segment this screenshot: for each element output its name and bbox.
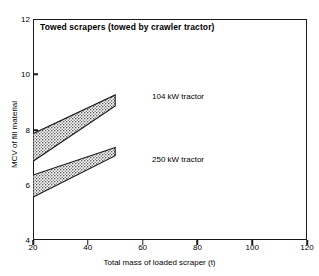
x-axis-title: Total mass of loaded scraper (t) [0,258,319,267]
x-tick-label-60: 60 [131,243,155,252]
series-label-250kw: 250 kW tractor [152,155,204,164]
band-250kw [33,147,115,197]
y-tick-label-12: 12 [14,15,30,24]
chart-figure: Towed scrapers (towed by crawler tractor… [0,0,319,276]
y-tick-label-6: 6 [14,181,30,190]
y-tick-label-10: 10 [14,70,30,79]
y-tick-label-8: 8 [14,126,30,135]
x-tick-label-80: 80 [185,243,209,252]
x-tick-label-100: 100 [240,243,264,252]
band-svg [33,19,307,240]
x-tick-label-120: 120 [295,243,319,252]
series-label-104kw: 104 kW tractor [152,92,204,101]
x-tick-label-20: 20 [21,243,45,252]
y-axis-ticks: 12 10 8 6 4 [8,0,30,276]
data-bands [33,19,307,240]
x-tick-label-40: 40 [76,243,100,252]
